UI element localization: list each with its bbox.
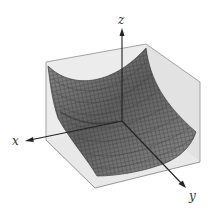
z-axis-label: z xyxy=(117,13,125,27)
z-axis-arrowhead-icon xyxy=(120,28,125,36)
surface-plot-figure: z x y xyxy=(0,0,211,213)
y-axis-label: y xyxy=(188,189,196,203)
x-axis-arrowhead-icon xyxy=(25,137,34,142)
x-axis-label: x xyxy=(12,134,19,148)
